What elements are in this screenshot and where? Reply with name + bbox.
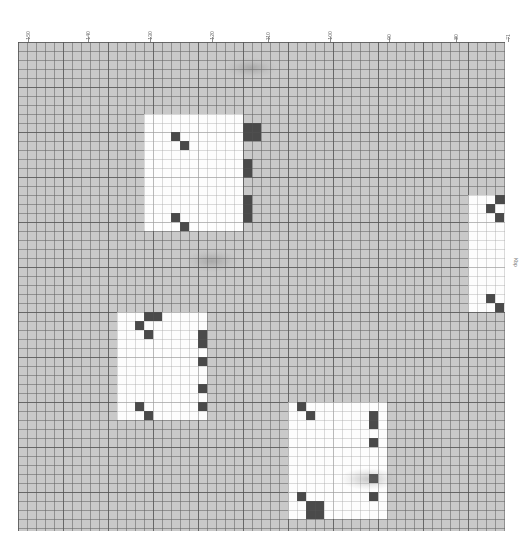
grid-plot-area xyxy=(18,42,505,531)
data-block-notch xyxy=(117,312,126,330)
data-cell-dark xyxy=(144,330,153,339)
data-cell-dark xyxy=(198,357,207,366)
data-block-notch xyxy=(468,195,477,213)
data-cell-dark xyxy=(198,384,207,393)
data-cell-dark xyxy=(369,438,378,447)
data-cell-dark xyxy=(486,204,495,213)
chart-canvas: 150140130120110100908071 Kbp xyxy=(0,0,520,548)
data-cell-dark xyxy=(144,411,153,420)
data-cell-dark xyxy=(495,303,504,312)
data-cell-dark xyxy=(135,321,144,330)
data-cell-dark xyxy=(297,492,306,501)
data-cell-dark xyxy=(144,312,162,321)
data-cell-dark xyxy=(135,402,144,411)
data-cell-dark xyxy=(243,123,261,141)
data-cell-dark xyxy=(243,159,252,177)
data-cell-dark xyxy=(171,213,180,222)
data-cell-dark xyxy=(369,492,378,501)
data-cell-dark xyxy=(369,411,378,429)
data-cell-dark xyxy=(369,474,378,483)
data-cell-dark xyxy=(180,141,189,150)
axis-tick-mark xyxy=(508,37,509,42)
data-cell-dark xyxy=(486,294,495,303)
data-cell-dark xyxy=(171,132,180,141)
grid-lines xyxy=(18,42,505,531)
data-cell-dark xyxy=(198,330,207,348)
data-cell-dark xyxy=(297,402,306,411)
data-cell-dark xyxy=(495,195,505,204)
data-cell-dark xyxy=(180,222,189,231)
data-block-notch xyxy=(288,402,297,411)
watermark-top xyxy=(225,58,277,78)
data-cell-dark xyxy=(495,213,504,222)
top-axis-ruler: 150140130120110100908071 xyxy=(0,0,520,42)
data-cell-dark xyxy=(306,411,315,420)
data-block xyxy=(117,312,207,420)
data-cell-dark xyxy=(306,501,324,519)
data-cell-dark xyxy=(198,402,207,411)
right-edge-label: Kbp xyxy=(513,258,518,267)
grid-lines-overlay xyxy=(18,42,505,531)
data-block-notch xyxy=(144,114,162,141)
watermark-middle xyxy=(186,250,238,272)
data-cell-dark xyxy=(243,195,252,213)
data-cell-dark xyxy=(243,213,252,222)
